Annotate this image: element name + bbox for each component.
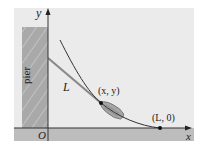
rope-length-label: L	[63, 81, 70, 93]
origin-label: O	[38, 130, 46, 141]
y-axis-label: y	[36, 7, 41, 19]
end-point-label: (L, 0)	[152, 113, 175, 123]
end-point-marker	[158, 126, 162, 130]
tractrix-diagram: y x O pier L (x, y) (L, 0)	[0, 0, 202, 156]
boat-point-label: (x, y)	[98, 86, 120, 96]
boat-point-marker	[99, 101, 103, 105]
pier-label: pier	[21, 67, 32, 84]
x-axis-label: x	[186, 131, 191, 142]
